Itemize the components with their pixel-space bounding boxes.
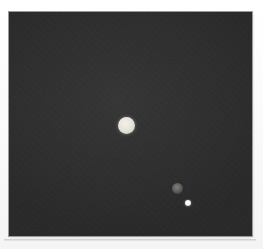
- scan-artifact-line: [4, 239, 256, 241]
- figure-page: [0, 0, 263, 249]
- source-faint-diffuse-disc: [172, 183, 183, 194]
- source-primary-bright-disc: [118, 117, 135, 134]
- sky-image-panel: [9, 12, 252, 236]
- source-bright-point: [185, 200, 191, 206]
